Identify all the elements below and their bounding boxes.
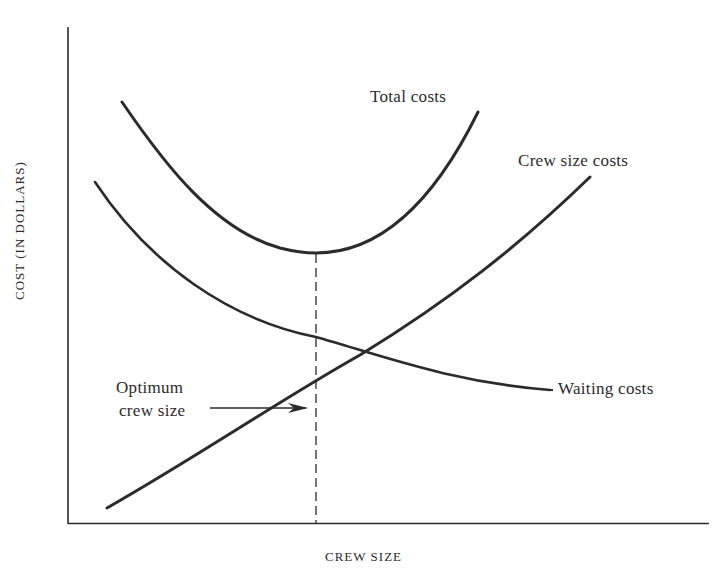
waiting-costs-label: Waiting costs <box>558 379 654 399</box>
waiting-costs-curve <box>95 182 550 390</box>
chart-plot <box>0 0 728 574</box>
crew-size-costs-label: Crew size costs <box>518 151 628 171</box>
cost-chart: COST (IN DOLLARS) CREW SIZE Total costs … <box>0 0 728 574</box>
total-costs-curve <box>122 102 478 253</box>
optimum-label-line1: Optimum <box>116 378 183 398</box>
crew-size-costs-curve <box>107 177 590 508</box>
y-axis-label: COST (IN DOLLARS) <box>12 161 28 300</box>
optimum-label-line2: crew size <box>119 401 185 421</box>
total-costs-label: Total costs <box>370 87 446 107</box>
x-axis-label: CREW SIZE <box>325 549 402 565</box>
